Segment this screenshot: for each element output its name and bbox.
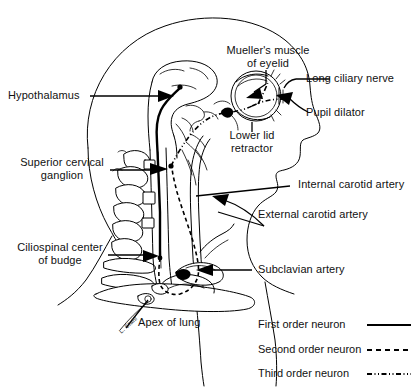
eye-globe [214,70,285,130]
vessels [176,136,234,300]
anatomy-figure: Hypothalamus Superior cervical ganglion … [0,0,419,387]
legend-label-first-order-neuron: First order neuron [258,318,345,331]
label-pupil-dilator: Pupil dilator [306,106,365,119]
lower-lid-retractor [238,112,270,120]
leader-internal-carotid [196,186,290,196]
label-superior-cervical-ganglion-line1: Superior cervical [14,156,110,169]
label-lower-lid-retractor-line2: retractor [212,142,292,155]
legend-label-third-order-neuron: Third order neuron [258,367,349,380]
ciliospinal-center-dot [158,256,163,261]
arrowhead-muellers-muscle [246,88,263,99]
label-muellers-muscle-line1: Mueller's muscle [212,44,324,57]
legend-label-second-order-neuron: Second order neuron [258,343,361,356]
label-hypothalamus: Hypothalamus [8,89,80,102]
label-long-ciliary-nerve: Long ciliary nerve [306,72,394,85]
label-lower-lid-retractor-line1: Lower lid [212,129,292,142]
legend-sample-lines [367,325,411,374]
diagram-canvas [0,0,419,387]
label-external-carotid-artery: External carotid artery [258,208,368,221]
label-superior-cervical-ganglion-line2: ganglion [14,169,110,182]
label-apex-of-lung: Apex of lung [138,316,200,329]
label-ciliospinal-center-line2: of budge [12,254,108,267]
label-muellers-muscle-line2: of eyelid [212,57,324,70]
label-internal-carotid-artery: Internal carotid artery [298,178,404,191]
external-carotid-artery-vessel [200,224,234,252]
arrowhead-ciliospinal-center [143,250,159,262]
clavicle [94,284,255,312]
label-subclavian-artery: Subclavian artery [258,263,345,276]
label-ciliospinal-center-line1: Ciliospinal center [12,241,108,254]
arrowhead-external-carotid [212,194,229,206]
